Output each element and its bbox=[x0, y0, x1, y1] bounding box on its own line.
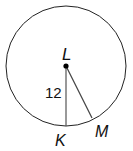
radius-length-label: 12 bbox=[45, 84, 62, 101]
point-m-label: M bbox=[95, 123, 109, 140]
center-label: L bbox=[62, 45, 71, 64]
center-point-dot bbox=[63, 63, 68, 68]
circle-diagram: L 12 K M bbox=[0, 0, 133, 151]
point-k-label: K bbox=[55, 132, 67, 149]
radius-segment-lm bbox=[66, 66, 92, 118]
diagram-svg: L 12 K M bbox=[0, 0, 133, 151]
